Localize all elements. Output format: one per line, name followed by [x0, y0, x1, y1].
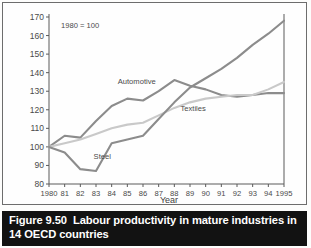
chart-series-group: [49, 21, 284, 171]
figure-container: 8090100110120130140150160170 19808182838…: [0, 0, 311, 248]
chart-frame: 8090100110120130140150160170 19808182838…: [2, 2, 307, 205]
x-tick-label: 89: [186, 189, 194, 198]
x-tick-label: 1980: [41, 189, 58, 198]
x-axis-title: Year: [160, 195, 178, 205]
x-tick-label: 1995: [276, 189, 293, 198]
baseline-annotation: 1980 = 100: [61, 21, 99, 30]
axis-lines: [49, 14, 284, 184]
y-tick-label: 80: [35, 179, 45, 189]
x-tick-label: 90: [201, 189, 209, 198]
y-tick-label: 130: [30, 86, 44, 96]
y-tick-label: 100: [30, 142, 44, 152]
y-tick-label: 140: [30, 68, 44, 78]
chart-axes: [49, 14, 284, 184]
y-tick-label: 90: [35, 160, 45, 170]
series-line-textiles: [49, 82, 284, 147]
series-label-steel: Steel: [94, 152, 112, 161]
x-tick-label: 94: [264, 189, 272, 198]
x-tick-label: 83: [92, 189, 100, 198]
x-tick-label: 84: [107, 189, 115, 198]
y-tick-label: 120: [30, 105, 44, 115]
series-label-automotive: Automotive: [118, 77, 156, 86]
chart-plot-area: 8090100110120130140150160170 19808182838…: [3, 3, 308, 206]
x-tick-label: 86: [139, 189, 147, 198]
x-tick-label: 92: [233, 189, 241, 198]
x-tick-label: 82: [76, 189, 84, 198]
y-axis-ticks: 8090100110120130140150160170: [30, 12, 49, 189]
x-tick-label: 91: [217, 189, 225, 198]
figure-caption-bar: Figure 9.50 Labour productivity in matur…: [2, 211, 307, 246]
y-tick-label: 160: [30, 31, 44, 41]
y-tick-label: 150: [30, 49, 44, 59]
figure-caption-number: Figure 9.50: [9, 214, 67, 226]
x-tick-label: 93: [248, 189, 256, 198]
line-chart: 8090100110120130140150160170 19808182838…: [3, 3, 308, 206]
y-tick-label: 110: [30, 123, 44, 133]
x-tick-label: 85: [123, 189, 131, 198]
series-line-automotive: [49, 80, 284, 147]
series-label-textiles: Textiles: [180, 104, 206, 113]
figure-caption: Figure 9.50 Labour productivity in matur…: [9, 214, 300, 241]
y-tick-label: 170: [30, 12, 44, 22]
x-tick-label: 81: [60, 189, 68, 198]
